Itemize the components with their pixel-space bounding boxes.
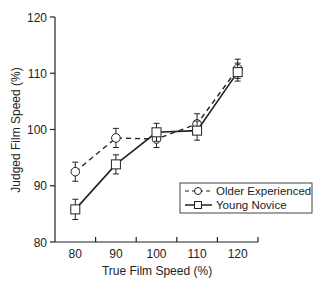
data-point-square-icon — [233, 68, 242, 77]
data-point-square-icon — [71, 205, 80, 214]
data-point-square-icon — [152, 128, 161, 137]
line-chart: 8090100110120 8090100110120 Judged Film … — [0, 0, 322, 291]
series-older-experienced — [71, 59, 242, 181]
x-tick-label: 110 — [188, 247, 207, 261]
legend-label-older-experienced: Older Experienced — [216, 185, 311, 197]
y-tick-label: 120 — [27, 11, 47, 25]
y-tick-label: 100 — [27, 123, 47, 137]
legend-square-marker-icon — [195, 202, 202, 209]
x-tick-label: 120 — [228, 247, 248, 261]
data-point-square-icon — [111, 160, 120, 169]
y-tick-label: 110 — [28, 67, 47, 81]
legend: Older Experienced Young Novice — [180, 183, 312, 213]
y-axis-ticks: 8090100110120 — [27, 11, 55, 250]
data-point-circle-icon — [112, 134, 121, 143]
y-axis-label: Judged Film Speed (%) — [9, 67, 23, 192]
y-tick-label: 90 — [34, 179, 48, 193]
legend-circle-marker-icon — [195, 188, 202, 195]
data-point-circle-icon — [71, 167, 80, 176]
x-tick-label: 100 — [146, 247, 166, 261]
x-axis-ticks: 8090100110120 — [69, 237, 258, 261]
legend-label-young-novice: Young Novice — [216, 199, 287, 211]
x-tick-label: 90 — [109, 247, 123, 261]
y-tick-label: 80 — [34, 236, 48, 250]
x-axis-label: True Film Speed (%) — [102, 264, 212, 278]
x-tick-label: 80 — [69, 247, 83, 261]
data-point-square-icon — [193, 126, 202, 135]
